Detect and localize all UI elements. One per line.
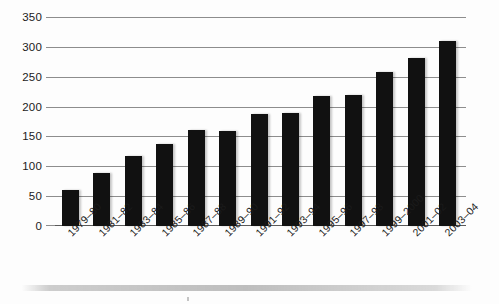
y-axis-tick-label: 100	[22, 160, 42, 172]
y-axis-tick-label: 200	[22, 101, 42, 113]
y-axis-tick-mark	[46, 196, 55, 197]
y-axis-tick-label: 300	[22, 41, 42, 53]
y-axis-tick-mark	[46, 225, 55, 226]
y-axis-tick-mark	[46, 47, 55, 48]
plot-area: 050100150200250300350	[55, 17, 466, 226]
gridline	[55, 47, 466, 48]
y-axis-tick-mark	[46, 77, 55, 78]
scan-artifact-band	[22, 285, 472, 291]
y-axis-tick-label: 50	[29, 190, 42, 202]
y-axis-tick-label: 250	[22, 71, 42, 83]
gridline	[55, 107, 466, 108]
y-axis-tick-label: 0	[35, 220, 42, 232]
gridline	[55, 77, 466, 78]
y-axis-tick-mark	[46, 166, 55, 167]
y-axis-tick-mark	[46, 136, 55, 137]
y-axis-tick-label: 150	[22, 130, 42, 142]
y-axis-tick-mark	[46, 107, 55, 108]
chart-page: 050100150200250300350 1979–801981–821983…	[0, 0, 499, 304]
scan-artifact-speck	[187, 297, 189, 301]
x-axis-labels-group: 1979–801981–821983–841985–861987–881989–…	[55, 227, 466, 287]
y-axis-tick-label: 350	[22, 11, 42, 23]
bar	[439, 41, 456, 226]
gridline	[55, 17, 466, 18]
y-axis-tick-mark	[46, 17, 55, 18]
